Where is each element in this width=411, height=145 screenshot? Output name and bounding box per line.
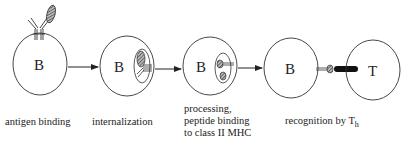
caption-processing-line-3: to class II MHC [184,127,251,138]
antigen-icon [45,4,57,23]
b-cell-3-label: B [196,59,206,75]
caption-recognition: recognition by Th [285,115,359,129]
caption-antigen-binding: antigen binding [5,116,71,127]
caption-processing-line-1: processing, [184,103,232,114]
presented-peptide-icon [327,65,333,73]
caption-processing-line-2: peptide binding [184,115,250,126]
b-cell-1-label: B [34,57,44,73]
stage-antigen-binding: B antigen binding [5,4,71,127]
b-cell-antigen-presentation-diagram: B antigen binding B [0,0,411,145]
b-cell-4-label: B [285,61,295,77]
caption-internalization: internalization [92,116,153,127]
b-cell-3 [183,37,237,95]
internalized-antibody-icon [137,65,152,77]
caption-recognition-subscript: h [355,120,359,129]
stage-processing: B processing, peptide binding to class I… [183,37,251,138]
b-cell-2-label: B [114,59,124,75]
membrane-antibody-icon [28,18,49,40]
stage-recognition: B T recognition by Th [264,38,400,129]
caption-recognition-main: recognition by T [285,115,355,126]
t-helper-cell-label: T [368,63,377,79]
peptide-fragment-icon [220,72,226,80]
b-cell-2 [100,36,154,96]
stage-internalization: B internalization [92,36,154,127]
peptide-mhc-icon [217,60,223,68]
mhc-stalk-icon [223,63,234,65]
